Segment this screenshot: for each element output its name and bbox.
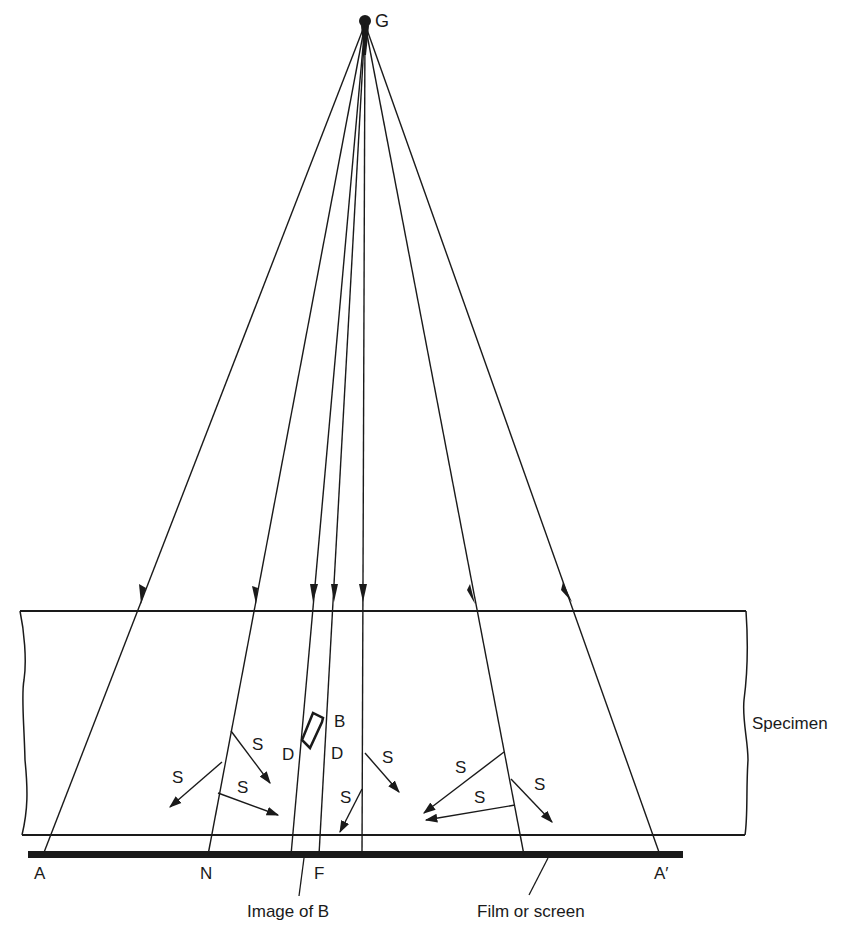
scatter-label: S (474, 789, 485, 806)
film-point-f: F (314, 865, 324, 882)
scatter-label: S (252, 736, 263, 753)
diffraction-label: D (282, 746, 294, 763)
primary-rays (43, 24, 660, 855)
specimen-label: Specimen (752, 715, 828, 732)
scatter-label: S (340, 789, 351, 806)
specimen-block (20, 611, 748, 835)
film-point-n: N (200, 865, 212, 882)
film-label: Film or screen (477, 903, 585, 920)
ray-arrowheads (139, 582, 572, 604)
image-of-b-leader (299, 858, 304, 896)
scatter-label: S (172, 769, 183, 786)
film-point-a: A (34, 865, 45, 882)
defect-b (302, 713, 323, 748)
film-leader (529, 858, 548, 895)
image-of-b-label: Image of B (247, 903, 329, 920)
scatter-label: S (382, 749, 393, 766)
radiography-diagram (0, 0, 851, 937)
diffraction-label: D (331, 745, 343, 762)
defect-label: B (334, 713, 345, 730)
scatter-label: S (237, 779, 248, 796)
source-label: G (375, 12, 389, 30)
scatter-label: S (534, 776, 545, 793)
film-strip (28, 851, 683, 858)
film-point-a-prime: A′ (654, 865, 669, 882)
scatter-label: S (455, 759, 466, 776)
scatter-arrows (170, 731, 552, 832)
